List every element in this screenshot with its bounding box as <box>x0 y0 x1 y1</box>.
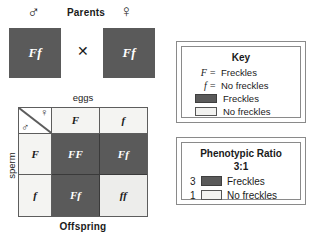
key-swatch-label-freckles: Freckles <box>223 93 292 104</box>
punnett-cell-0-0: FF <box>52 134 99 175</box>
parents-section: ♂ Parents ♀ Ff ✕ Ff <box>0 0 165 90</box>
male-symbol-icon: ♂ <box>27 4 40 21</box>
punnett-cell-1-0: Ff <box>52 175 99 216</box>
phenotypic-ratio-value: 3:1 <box>190 161 292 172</box>
key-row-dominant-swatch: Freckles <box>190 92 292 105</box>
key-title: Key <box>190 52 292 63</box>
key-symbol-dominant: F = <box>190 67 221 78</box>
corner-female-symbol-icon: ♀ <box>40 108 48 118</box>
ratio-swatch-no-freckles <box>201 190 222 200</box>
punnett-column-header-0: F <box>52 108 99 134</box>
ratio-count-freckles: 3 <box>190 176 199 187</box>
punnett-row-header-label: f <box>33 189 37 201</box>
punnett-column-header-label: F <box>72 114 79 126</box>
phenotypic-ratio-title: Phenotypic Ratio <box>190 148 292 159</box>
punnett-cell-1-1: ff <box>100 175 147 216</box>
parent-female-genotype-label: Ff <box>123 45 136 61</box>
key-swatch-freckles <box>195 94 217 103</box>
parent-male-genotype-label: Ff <box>29 45 42 61</box>
offspring-label: Offspring <box>18 221 148 232</box>
ratio-swatch-freckles <box>201 176 222 186</box>
key-symbol-recessive: f = <box>190 80 221 91</box>
key-row-recessive-symbol: f = No freckles <box>190 79 292 92</box>
key-equals-sign: = <box>209 80 216 91</box>
punnett-column-header-1: f <box>100 108 147 134</box>
eggs-axis-label: eggs <box>18 92 148 103</box>
ratio-count-no-freckles: 1 <box>190 190 199 201</box>
key-row-dominant-symbol: F = Freckles <box>190 66 292 79</box>
punnett-square-grid: ♀ ♂ F f F FF Ff f Ff ff <box>18 107 148 217</box>
key-equals-sign: = <box>209 67 216 78</box>
ratio-row-freckles: 3 Freckles <box>190 174 292 188</box>
cross-symbol: ✕ <box>72 43 94 59</box>
punnett-row-header-label: F <box>31 148 38 160</box>
key-panel: Key F = Freckles f = No freckles Freckle… <box>176 41 306 123</box>
punnett-cell-0-1: Ff <box>100 134 147 175</box>
parent-male-genotype-box: Ff <box>9 28 61 78</box>
female-symbol-icon: ♀ <box>120 3 133 20</box>
key-symbol-text: f <box>204 80 207 91</box>
key-swatch-label-no-freckles: No freckles <box>223 106 292 117</box>
key-symbol-text: F <box>201 67 207 78</box>
punnett-corner-cell: ♀ ♂ <box>19 108 52 134</box>
punnett-column-header-label: f <box>121 114 125 126</box>
parent-female-genotype-box: Ff <box>103 28 155 78</box>
punnett-cell-genotype: Ff <box>118 148 129 160</box>
ratio-label-no-freckles: No freckles <box>227 190 277 201</box>
parents-heading: Parents <box>55 7 117 18</box>
key-swatch-no-freckles <box>195 107 217 116</box>
ratio-label-freckles: Freckles <box>227 176 265 187</box>
sperm-axis-label: sperm <box>6 143 17 189</box>
key-panel-inner: Key F = Freckles f = No freckles Freckle… <box>181 46 301 118</box>
ratio-row-no-freckles: 1 No freckles <box>190 188 292 202</box>
phenotypic-ratio-panel: Phenotypic Ratio 3:1 3 Freckles 1 No fre… <box>176 137 306 205</box>
phenotypic-ratio-panel-inner: Phenotypic Ratio 3:1 3 Freckles 1 No fre… <box>181 142 301 200</box>
punnett-cell-genotype: Ff <box>70 189 81 201</box>
key-label-recessive: No freckles <box>221 80 292 91</box>
corner-male-symbol-icon: ♂ <box>21 122 29 133</box>
key-label-dominant: Freckles <box>221 67 292 78</box>
punnett-cell-genotype: FF <box>68 148 83 160</box>
punnett-row-header-1: f <box>19 175 52 216</box>
punnett-cell-genotype: ff <box>120 189 127 201</box>
punnett-row-header-0: F <box>19 134 52 175</box>
key-row-recessive-swatch: No freckles <box>190 105 292 118</box>
